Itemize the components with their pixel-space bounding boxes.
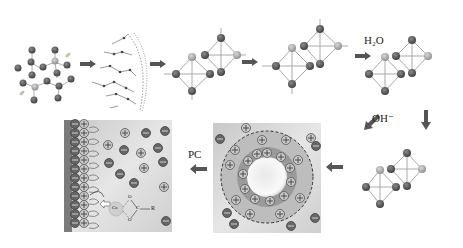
arrow-left-2 xyxy=(190,164,207,174)
arrow-4 xyxy=(355,52,371,60)
stage-depolymerized xyxy=(92,33,147,112)
arrow-down xyxy=(421,110,431,130)
o-top-label: O xyxy=(128,194,132,199)
ca-label: Ca xyxy=(112,205,118,210)
c-label: C xyxy=(136,205,139,210)
arrow-left-1 xyxy=(326,162,343,172)
arrow-2 xyxy=(150,60,166,68)
r-label: R xyxy=(151,205,155,211)
arrow-1 xyxy=(80,60,96,68)
stage-cation-balanced xyxy=(262,19,348,94)
h2o-label: H₂O xyxy=(364,34,384,46)
pc-label: PC xyxy=(188,148,201,160)
stage-pc-adsorption xyxy=(64,120,172,233)
stage-hydroxylated xyxy=(362,149,426,208)
stage-precursor xyxy=(15,47,75,104)
stage-particle-double-layer xyxy=(213,123,321,233)
stage-charged-tetrahedra xyxy=(164,28,246,100)
oh-label: OH⁻ xyxy=(372,112,394,125)
arrow-3 xyxy=(242,58,258,66)
o-bottom-label: O xyxy=(128,217,132,222)
